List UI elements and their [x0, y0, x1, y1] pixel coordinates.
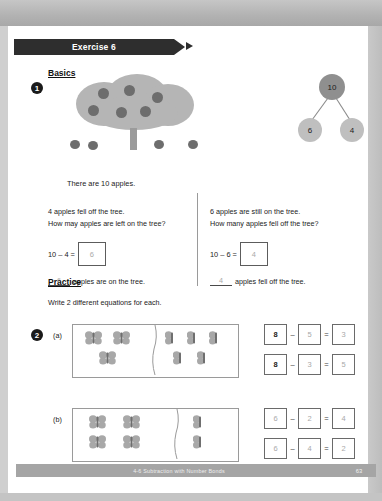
exercise-banner: Exercise 6: [14, 39, 194, 55]
a2-minus-sign: –: [287, 360, 298, 369]
b2-equals-sign: =: [321, 444, 332, 453]
worksheet-page: Exercise 6 Basics 1 10 6 4 There are 10 …: [8, 26, 368, 493]
question-number-2: 2: [31, 329, 43, 341]
apple-ground: [88, 141, 98, 150]
window-top-band: [0, 0, 382, 26]
butterfly-half: [209, 331, 218, 345]
bottom-edge-strip: [0, 493, 382, 501]
page-footer: 4-6 Subtraction with Number Bonds 63: [16, 464, 376, 477]
a1-difference[interactable]: 3: [332, 324, 355, 345]
butterfly-half: [173, 351, 182, 365]
right-blank-answer[interactable]: 4: [210, 276, 232, 286]
b2-difference[interactable]: 2: [332, 438, 355, 459]
part-a-equations: 8 – 5 = 3 8 – 3 = 5: [264, 324, 355, 384]
a2-minuend: 8: [264, 354, 287, 375]
question1-right-prompt: 6 apples are still on the tree. How many…: [210, 206, 365, 229]
practice-heading: Practice: [48, 277, 81, 287]
b2-minus-sign: –: [287, 444, 298, 453]
apple-canopy: [152, 92, 163, 103]
apple-ground: [70, 140, 80, 149]
butterfly-half: [193, 435, 202, 449]
banner-point: [174, 39, 185, 55]
a1-equals-sign: =: [321, 330, 332, 339]
question1-intro: There are 10 apples.: [67, 178, 135, 189]
butterfly-whole: [123, 435, 140, 449]
a1-minus-sign: –: [287, 330, 298, 339]
b2-minuend[interactable]: 6: [264, 438, 287, 459]
b1-subtrahend[interactable]: 2: [298, 408, 321, 429]
part-b-butterfly-box: [72, 408, 239, 462]
right-prompt-line2: How many apples fell off the tree?: [210, 218, 365, 230]
number-bond: 10 6 4: [298, 74, 372, 152]
number-bond-part-left: 6: [298, 118, 322, 142]
butterfly-half: [187, 331, 196, 345]
a1-subtrahend[interactable]: 5: [298, 324, 321, 345]
number-bond-whole: 10: [319, 74, 345, 100]
butterfly-half: [197, 351, 206, 365]
left-equation-answer-box[interactable]: 6: [78, 242, 106, 266]
b1-minus-sign: –: [287, 414, 298, 423]
apple-tree-illustration: [66, 74, 206, 152]
question1-left-equation: 10 – 4 = 6: [48, 242, 106, 266]
a2-subtrahend[interactable]: 3: [298, 354, 321, 375]
part-a-butterfly-box: [72, 324, 239, 378]
apple-canopy: [140, 106, 151, 117]
part-b-equation-2: 6 – 4 = 2: [264, 438, 355, 459]
butterfly-whole: [113, 331, 130, 345]
banner-arrow-icon: [186, 42, 193, 50]
right-equation-text: 10 – 6 =: [210, 250, 237, 259]
butterfly-half: [193, 415, 202, 429]
apple-canopy: [98, 88, 109, 99]
a1-minuend: 8: [264, 324, 287, 345]
apple-ground: [188, 140, 198, 149]
b1-equals-sign: =: [321, 414, 332, 423]
part-b-label: (b): [53, 415, 62, 424]
footer-page-number: 63: [342, 468, 376, 474]
left-prompt-line1: 4 apples fell off the tree.: [48, 206, 193, 218]
a2-difference[interactable]: 5: [332, 354, 355, 375]
question1-left-prompt: 4 apples fell off the tree. How may appl…: [48, 206, 193, 229]
right-equation-answer-box[interactable]: 4: [240, 242, 268, 266]
exercise-banner-label: Exercise 6: [14, 39, 174, 55]
column-divider: [197, 193, 198, 286]
part-a-equation-2: 8 – 3 = 5: [264, 354, 355, 375]
part-b-split-line: [177, 409, 178, 461]
right-prompt-line1: 6 apples are still on the tree.: [210, 206, 365, 218]
apple-canopy: [116, 107, 127, 118]
question1-right-sentence: 4 apples fell off the tree.: [210, 276, 306, 286]
apple-ground: [154, 140, 164, 149]
tree-trunk: [130, 128, 137, 150]
right-blank-sentence: apples fell off the tree.: [235, 277, 306, 286]
butterfly-whole: [85, 331, 102, 345]
apple-canopy: [88, 105, 99, 116]
number-bond-part-right: 4: [340, 118, 364, 142]
part-b-equations: 6 – 2 = 4 6 – 4 = 2: [264, 408, 355, 468]
part-a-equation-1: 8 – 5 = 3: [264, 324, 355, 345]
butterfly-whole: [89, 435, 106, 449]
question1-right-equation: 10 – 6 = 4: [210, 242, 268, 266]
left-equation-text: 10 – 4 =: [48, 250, 75, 259]
left-prompt-line2: How may apples are left on the tree?: [48, 218, 193, 230]
part-a-label: (a): [53, 331, 62, 340]
butterfly-half: [165, 331, 174, 345]
practice-instruction: Write 2 different equations for each.: [48, 298, 162, 307]
question-number-1: 1: [31, 82, 43, 94]
butterfly-whole: [123, 415, 140, 429]
left-blank-sentence: apples are on the tree.: [73, 277, 145, 286]
a2-equals-sign: =: [321, 360, 332, 369]
part-b-equation-1: 6 – 2 = 4: [264, 408, 355, 429]
part-a-split-line: [155, 325, 156, 377]
b2-subtrahend[interactable]: 4: [298, 438, 321, 459]
butterfly-whole: [89, 415, 106, 429]
b1-minuend[interactable]: 6: [264, 408, 287, 429]
footer-title: 4-6 Subtraction with Number Bonds: [16, 468, 342, 474]
b1-difference[interactable]: 4: [332, 408, 355, 429]
butterfly-whole: [99, 351, 116, 365]
apple-canopy: [124, 85, 135, 96]
